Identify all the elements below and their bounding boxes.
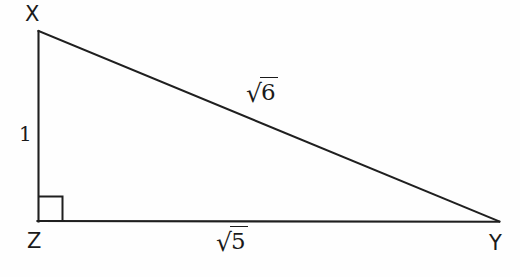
radical-expression-hypotenuse: √6	[246, 80, 278, 105]
side-label-vertical-leg: 1	[19, 124, 32, 144]
radicand-hypotenuse: 6	[260, 77, 278, 105]
vertex-label-z: Z	[27, 231, 41, 252]
vertex-label-x: X	[25, 4, 39, 25]
side-label-hypotenuse: √6	[246, 80, 278, 105]
vertex-label-y: Y	[489, 233, 502, 254]
triangle-leg-horizontal	[38, 221, 500, 222]
radicand-base: 5	[230, 226, 248, 254]
triangle-hypotenuse	[39, 31, 500, 222]
right-angle-marker	[39, 197, 63, 221]
geometry-figure: X Z Y 1 √6 √5	[0, 0, 520, 277]
radical-expression-base: √5	[216, 229, 248, 254]
triangle-drawing	[0, 0, 520, 277]
side-label-horizontal-leg: √5	[216, 229, 248, 254]
